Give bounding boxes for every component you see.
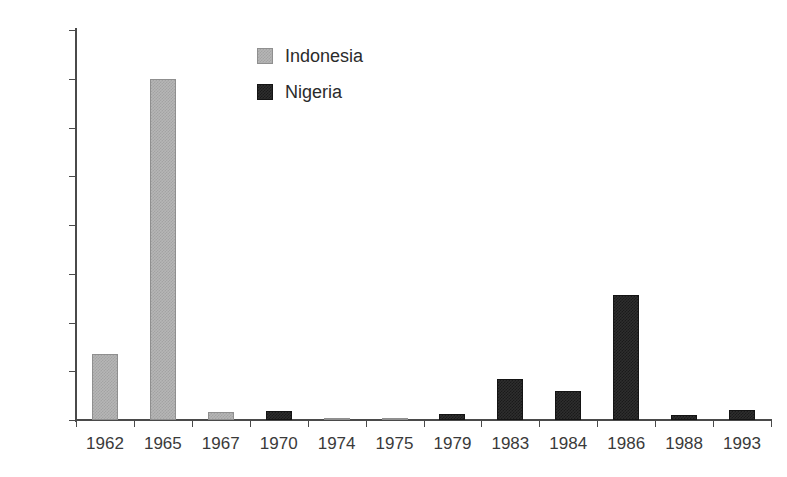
bar-nigeria-1993 — [729, 410, 755, 420]
legend-item-nigeria: Nigeria — [257, 83, 363, 101]
y-axis-tick — [69, 274, 76, 275]
y-axis-tick — [69, 420, 76, 421]
legend-item-indonesia: Indonesia — [257, 47, 363, 65]
x-axis-label: 1974 — [318, 434, 356, 454]
x-axis-tick — [134, 420, 135, 427]
x-axis-tick — [192, 420, 193, 427]
x-axis-tick — [713, 420, 714, 427]
bar-nigeria-1970 — [266, 411, 292, 420]
x-axis-label: 1979 — [434, 434, 472, 454]
bar-nigeria-1979 — [439, 414, 465, 420]
x-axis-tick — [308, 420, 309, 427]
x-axis-label: 1986 — [607, 434, 645, 454]
x-axis-label: 1962 — [86, 434, 124, 454]
x-axis-label: 1983 — [491, 434, 529, 454]
bar-nigeria-1983 — [497, 379, 523, 420]
x-axis-label: 1967 — [202, 434, 240, 454]
x-axis-tick — [655, 420, 656, 427]
legend-label-indonesia: Indonesia — [285, 47, 363, 65]
bar-indonesia-1975 — [382, 418, 408, 420]
legend-swatch-nigeria — [257, 84, 273, 100]
y-axis-tick — [69, 323, 76, 324]
x-axis-label: 1975 — [376, 434, 414, 454]
x-axis-label: 1970 — [260, 434, 298, 454]
x-axis-tick — [250, 420, 251, 427]
legend-swatch-indonesia — [257, 48, 273, 64]
bar-indonesia-1962 — [92, 354, 118, 420]
x-axis-label: 1984 — [549, 434, 587, 454]
x-axis-tick — [771, 420, 772, 427]
bar-nigeria-1984 — [555, 391, 581, 420]
x-axis-tick — [597, 420, 598, 427]
y-axis-tick — [69, 30, 76, 31]
y-axis-tick — [69, 176, 76, 177]
x-axis-tick — [366, 420, 367, 427]
legend-label-nigeria: Nigeria — [285, 83, 342, 101]
x-axis-label: 1965 — [144, 434, 182, 454]
y-axis-tick — [69, 225, 76, 226]
x-axis-tick — [539, 420, 540, 427]
bar-indonesia-1974 — [324, 418, 350, 420]
plot-area: 05001,0001,5002,0002,5003,0003,5004,0001… — [76, 30, 771, 420]
x-axis-label: 1993 — [723, 434, 761, 454]
x-axis-label: 1988 — [665, 434, 703, 454]
bar-chart: 05001,0001,5002,0002,5003,0003,5004,0001… — [0, 0, 787, 477]
bar-nigeria-1986 — [613, 295, 639, 420]
chart-legend: Indonesia Nigeria — [257, 47, 363, 119]
x-axis-tick — [424, 420, 425, 427]
x-axis-tick — [76, 420, 77, 427]
y-axis-tick — [69, 128, 76, 129]
x-axis-tick — [481, 420, 482, 427]
y-axis-tick — [69, 79, 76, 80]
bar-indonesia-1965 — [150, 79, 176, 420]
bar-indonesia-1967 — [208, 412, 234, 420]
y-axis-tick — [69, 371, 76, 372]
bar-nigeria-1988 — [671, 415, 697, 420]
